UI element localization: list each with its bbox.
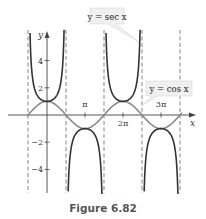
x-tick-label-1: 2π	[118, 119, 128, 128]
sec-branch-3	[144, 129, 178, 195]
x-axis-arrow	[189, 113, 196, 118]
sec-branch-1	[68, 129, 102, 195]
curves	[27, 30, 182, 194]
x-axis-label: x	[190, 118, 195, 128]
y-tick-label-2: −2	[31, 138, 43, 147]
y-tick-label-0: 4	[38, 57, 43, 66]
chart: x y π2π3π42−2−4 y = sec x y = cos x	[0, 0, 206, 219]
x-tick-label-2: 3π	[156, 100, 166, 109]
asymptotes	[28, 30, 180, 193]
sec-callout-label: y = sec x	[87, 12, 127, 22]
y-axis-arrow	[45, 31, 50, 38]
y-tick-label-1: 2	[38, 84, 43, 93]
cos-callout-label: y = cos x	[148, 84, 188, 94]
sec-callout: y = sec x	[87, 8, 139, 42]
y-tick-label-3: −4	[31, 165, 43, 174]
y-axis-label: y	[37, 30, 44, 40]
figure-caption: Figure 6.82	[0, 202, 206, 214]
cos-callout: y = cos x	[141, 81, 192, 106]
sec-branch-2	[106, 30, 140, 102]
x-tick-label-0: π	[82, 100, 87, 109]
